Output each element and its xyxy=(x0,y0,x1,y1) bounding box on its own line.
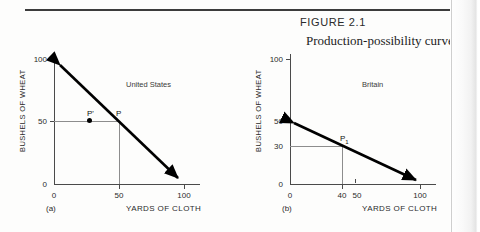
chart-panel-united-states: BUSHELS OF WHEAT 100 50 0 0 50 100 YARDS… xyxy=(8,24,240,224)
top-rule-divider xyxy=(25,9,451,11)
point-label-p1: P1 xyxy=(340,134,349,145)
ppf-curve-britain xyxy=(244,24,476,224)
page-edge-shading xyxy=(450,0,480,232)
point-label-p-prime: P' xyxy=(87,109,94,118)
figure-page: FIGURE 2.1 Production-possibility curves… xyxy=(0,0,480,232)
point-label-p: P xyxy=(116,109,121,118)
page-edge-line xyxy=(451,0,452,232)
point-marker-p-prime xyxy=(87,118,92,123)
chart-panel-britain: BUSHELS OF WHEAT 100 50 30 0 0 40 50 100… xyxy=(244,24,476,224)
point-label-p1-text: P1 xyxy=(340,134,349,143)
ppf-curve-united-states xyxy=(8,24,240,224)
